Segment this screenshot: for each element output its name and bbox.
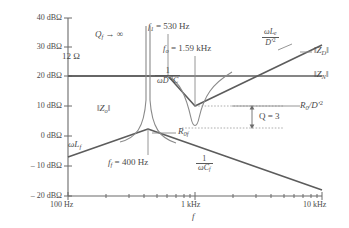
zo-norm-bar-right: ‖ [108, 103, 111, 113]
one-over-omega-cf-annotation: 1 ωCf [196, 155, 213, 173]
zn-norm-bar-right: ‖ [326, 69, 329, 79]
zd-norm-bar-right: ‖ [326, 45, 329, 55]
y-tick-label-40: 40 dBΩ [16, 14, 62, 22]
zn-label: ‖ZN‖ [314, 70, 328, 80]
y-tick-label-30: 30 dBΩ [16, 43, 62, 51]
zo-label: ‖Zo‖ [97, 104, 110, 114]
r0-over-d2-annotation: R0/D′2 [300, 100, 323, 111]
wd2c-numerator: 1 [155, 67, 180, 75]
f1-annotation: f1 = 530 Hz [148, 22, 190, 32]
ff-annotation: ff = 400 Hz [108, 158, 148, 168]
ff-subscript: f [111, 161, 113, 168]
series-zo-asymptotes [68, 129, 322, 190]
f1-value: = 530 Hz [156, 21, 190, 31]
x-tick-label-1khz: 1 kHz [181, 201, 200, 209]
wlf-symbol: ωL [68, 139, 79, 149]
y-tick-label-m20: – 20 dBΩ [10, 192, 62, 200]
wcf-denominator: ωCf [196, 163, 213, 173]
wle-denominator: D′2 [262, 37, 279, 47]
wle-leader [278, 44, 292, 50]
r0d2-superscript: 2 [320, 99, 323, 106]
bode-plot-figure: 40 dBΩ 30 dBΩ 20 dBΩ 10 dBΩ 0 dBΩ – 10 d… [0, 0, 349, 228]
wle-numerator: ωLe [262, 28, 279, 37]
fo-subscript: o [166, 47, 169, 54]
y-tick-label-0: 0 dBΩ [16, 132, 62, 140]
omega-le-over-d2-annotation: ωLe D′2 [262, 28, 279, 47]
ff-value: = 400 Hz [115, 157, 149, 167]
q-equals-3-annotation: Q = 3 [259, 112, 280, 121]
fo-value: = 1.59 kHz [171, 43, 211, 53]
roff-annotation: R0f [178, 127, 189, 137]
f1-subscript: 1 [151, 25, 154, 32]
roff-subscript: 0f [184, 130, 189, 137]
q-factor-arrow [250, 105, 255, 129]
y-tick-label-20: 20 dBΩ [16, 72, 62, 80]
impedance-12-ohm-label: 12 Ω [62, 52, 80, 61]
x-axis-title: f [192, 212, 195, 221]
qf-subscript: f [102, 33, 104, 40]
fo-annotation: fo = 1.59 kHz [163, 44, 211, 54]
wd2c-denominator: ωD′2C [155, 75, 180, 85]
qf-arrow: → ∞ [106, 29, 124, 39]
r0d2-tail: /D′ [309, 100, 320, 110]
y-tick-label-10: 10 dBΩ [16, 102, 62, 110]
wlf-subscript: f [79, 143, 81, 150]
qf-infinity-annotation: Qf → ∞ [95, 30, 123, 40]
x-tick-label-10khz: 10 kHz [303, 201, 326, 209]
omega-lf-annotation: ωLf [68, 140, 81, 150]
x-tick-label-100hz: 100 Hz [50, 201, 73, 209]
y-tick-label-m10: – 10 dBΩ [10, 162, 62, 170]
x-tick-marks [68, 192, 322, 200]
wcf-numerator: 1 [196, 155, 213, 163]
one-over-omega-d2-c-annotation: 1 ωD′2C [155, 66, 180, 84]
zd-label: ‖ZD‖ [314, 46, 329, 56]
